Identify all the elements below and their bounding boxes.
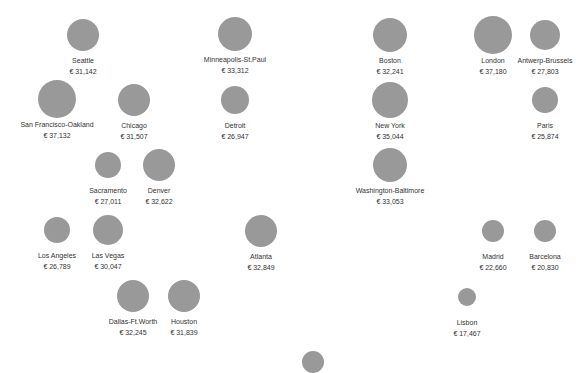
- city-value-label: € 27,803: [485, 67, 576, 77]
- city-bubble: [118, 84, 150, 116]
- city-bubble: [218, 17, 252, 51]
- city-name-label: Detroit: [175, 121, 295, 131]
- city-bubble: [474, 16, 512, 54]
- city-value-label: € 32,849: [201, 263, 321, 273]
- city-bubble: [373, 148, 407, 182]
- city-bubble: [245, 215, 277, 247]
- city-bubble: [534, 220, 556, 242]
- city-name-label: Minneapolis-St.Paul: [175, 55, 295, 65]
- city-value-label: € 20,830: [485, 263, 576, 273]
- city-name-label: Las Vegas: [48, 251, 168, 261]
- city-bubble: [44, 217, 70, 243]
- city-name-label: Seattle: [23, 56, 143, 66]
- city-value-label: € 32,622: [99, 197, 219, 207]
- city-name-label: Antwerp-Brussels: [485, 56, 576, 66]
- city-bubble: [95, 152, 121, 178]
- city-value-label: € 26,947: [175, 132, 295, 142]
- city-value-label: € 33,312: [175, 66, 295, 76]
- city-value-label: € 32,241: [330, 67, 450, 77]
- city-bubble: [221, 86, 249, 114]
- city-bubble: [458, 288, 476, 306]
- city-bubble: [372, 82, 408, 118]
- city-name-label: New York: [330, 121, 450, 131]
- city-name-label: Paris: [485, 121, 576, 131]
- city-name-label: Barcelona: [485, 252, 576, 262]
- city-name-label: Boston: [330, 56, 450, 66]
- city-bubble: [117, 280, 149, 312]
- city-value-label: € 30,047: [48, 262, 168, 272]
- city-name-label: Washington-Baltimore: [330, 186, 450, 196]
- city-value-label: € 35,044: [330, 132, 450, 142]
- city-value-label: € 17,467: [407, 329, 527, 339]
- city-name-label: Atlanta: [201, 252, 321, 262]
- city-name-label: Denver: [99, 186, 219, 196]
- city-name-label: Houston: [124, 317, 244, 327]
- city-value-label: € 33,053: [330, 197, 450, 207]
- city-name-label: Lisbon: [407, 318, 527, 328]
- city-bubble: [93, 215, 123, 245]
- city-bubble: [38, 80, 76, 118]
- city-value-label: € 31,839: [124, 328, 244, 338]
- city-bubble: [532, 87, 558, 113]
- city-bubble: [482, 220, 504, 242]
- city-bubble: [168, 280, 200, 312]
- city-bubble: [143, 149, 175, 181]
- city-bubble: [67, 19, 99, 51]
- city-value-label: € 31,142: [23, 67, 143, 77]
- city-value-label: € 25,874: [485, 132, 576, 142]
- city-bubble: [302, 351, 324, 373]
- city-bubble: [530, 20, 560, 50]
- city-bubble: [373, 18, 407, 52]
